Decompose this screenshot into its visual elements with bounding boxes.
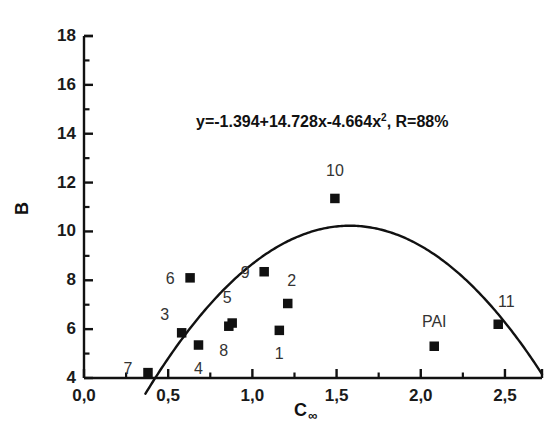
data-point-marker (259, 267, 269, 277)
data-point-label: 3 (160, 306, 169, 324)
data-point-label: 6 (166, 270, 175, 288)
x-tick-label: 0,5 (156, 386, 180, 406)
y-tick-label: 14 (57, 124, 76, 144)
regression-equation: y=-1.394+14.728x-4.664x2, R=88% (196, 112, 448, 131)
data-point-label: 1 (275, 345, 284, 363)
y-tick-label: 16 (57, 75, 76, 95)
x-tick-label: 2,5 (493, 386, 517, 406)
data-point-label: 2 (287, 272, 296, 290)
data-point-marker (283, 299, 293, 309)
data-point-marker (275, 326, 285, 336)
regression-equation-main: y=-1.394+14.728x-4.664x (196, 113, 381, 130)
data-point-label: PAI (422, 313, 447, 331)
y-tick-label: 12 (57, 173, 76, 193)
data-point-marker (429, 341, 439, 351)
y-tick-label: 8 (67, 270, 76, 290)
data-point-label: 10 (326, 162, 344, 180)
data-point-label: 5 (223, 289, 232, 307)
data-point-marker (194, 340, 204, 350)
data-point-marker (330, 194, 340, 204)
x-tick-label: 1,5 (325, 386, 349, 406)
x-tick-label: 0,0 (72, 386, 96, 406)
data-point-label: 11 (498, 293, 515, 311)
data-point-label: 7 (124, 360, 133, 378)
data-point-marker (493, 320, 503, 330)
data-point-marker (224, 321, 234, 331)
y-tick-label: 10 (57, 221, 76, 241)
data-point-label: 8 (219, 342, 228, 360)
data-point-marker (143, 368, 153, 378)
x-tick-label: 2,0 (409, 386, 433, 406)
x-axis-title-base: C (294, 400, 307, 421)
x-tick-label: 1,0 (241, 386, 265, 406)
y-tick-label: 6 (67, 319, 76, 339)
x-axis-title-subscript: ∞ (308, 408, 317, 423)
data-point-marker (177, 328, 187, 338)
data-point-marker (185, 273, 195, 283)
data-point-label: 4 (194, 360, 203, 378)
regression-correlation: , R=88% (387, 113, 449, 130)
fit-curve (145, 226, 542, 394)
data-point-label: 9 (241, 264, 250, 282)
plot-area (0, 0, 560, 442)
y-tick-label: 18 (57, 26, 76, 46)
y-tick-label: 4 (67, 368, 76, 388)
y-axis-title: B (12, 202, 33, 215)
chart-figure: 46810121416180,00,51,01,52,02,5123456789… (0, 0, 560, 442)
x-axis-title: C∞ (294, 400, 316, 421)
